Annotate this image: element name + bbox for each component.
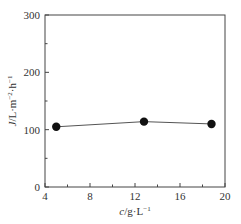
y-axis-label: J/L·m−2·h−1 (6, 75, 18, 126)
plot-frame (45, 15, 225, 187)
x-tick-label: 4 (42, 190, 48, 202)
data-point (140, 117, 148, 125)
x-tick-label: 16 (175, 190, 187, 202)
data-point (52, 123, 60, 131)
x-axis-ticks (45, 183, 225, 187)
x-tick-label: 12 (130, 190, 141, 202)
data-point (207, 120, 215, 128)
y-tick-label: 100 (24, 124, 41, 136)
y-axis-ticks (45, 15, 49, 187)
y-tick-label: 0 (35, 181, 41, 193)
y-tick-label: 200 (24, 66, 41, 78)
x-tick-label: 20 (220, 190, 232, 202)
chart: 0 100 200 300 4 8 12 16 20 c/g·L−1 J/L·m… (0, 0, 241, 224)
x-axis-label: c/g·L−1 (119, 205, 151, 217)
x-tick-label: 8 (87, 190, 93, 202)
data-series (52, 117, 216, 131)
y-tick-label: 300 (24, 9, 41, 21)
series-line (56, 122, 211, 127)
